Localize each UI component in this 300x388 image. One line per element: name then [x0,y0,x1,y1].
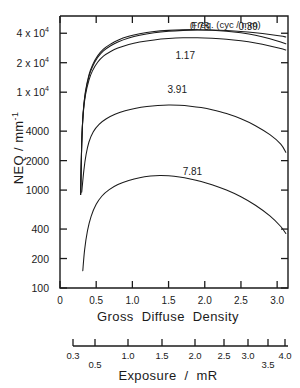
y-axis-title: NEQ / mm-1 [11,112,26,185]
exposure-tick-label-8: 4.0 [278,351,291,361]
frame-rect [60,16,288,288]
plot-frame [60,16,288,288]
data-curves [81,30,286,271]
y-tick-label-7: 2 x 104 [0,57,49,68]
x-tick-label-6: 3.0 [270,296,284,306]
y-tick-label-8: 4 x 104 [0,28,49,39]
exposure-tick-label-5: 2.5 [217,351,230,361]
y-tick-label-0: 100 [0,283,49,294]
exposure-tick-label-3: 1.5 [155,351,168,361]
y-axis-ticks [60,33,288,288]
exposure-tick-label-0: 0.3 [66,351,79,361]
x-tick-label-5: 2.5 [234,296,248,306]
y-tick-label-1: 200 [0,253,49,264]
exposure-axis [73,339,288,346]
curve-7.81 [83,176,286,271]
exposure-tick-label-4: 2.0 [188,351,201,361]
x-tick-label-4: 2.0 [198,296,212,306]
curve-3.91 [82,105,286,192]
x-axis-title: Gross Diffuse Density [18,310,300,323]
x-tick-label-0: 0 [57,296,63,306]
x-tick-label-2: 1.0 [125,296,139,306]
y-tick-label-2: 400 [0,224,49,235]
x-tick-label-1: 0.5 [89,296,103,306]
curve-label-7.81: 7.81 [183,167,202,177]
exposure-tick-label-6: 3.0 [241,351,254,361]
legend-title: Freq. (cyc / mm) [191,20,260,30]
exposure-axis-title: Exposure / mR [18,369,300,382]
x-tick-label-3: 1.5 [162,296,176,306]
x-axis-ticks [60,16,277,288]
neq-chart-figure: 1002004001000200040001 x 1042 x 1044 x 1… [0,0,300,388]
curve-label-3.91: 3.91 [168,85,187,95]
y-axis-title-wrapper: NEQ / mm-1 [9,93,29,203]
exposure-tick-label-2: 1.0 [121,351,134,361]
curve-label-1.17: 1.17 [175,51,194,61]
